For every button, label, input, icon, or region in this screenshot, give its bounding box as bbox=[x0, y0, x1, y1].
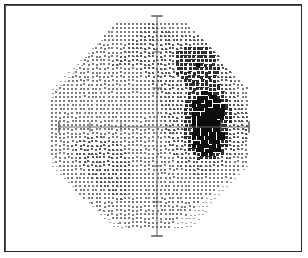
visual-field-plot-page: Visual Field Grayscale Plot bbox=[0, 0, 308, 258]
visual-field-chart bbox=[0, 0, 308, 258]
grayscale-dot-field bbox=[0, 0, 308, 258]
